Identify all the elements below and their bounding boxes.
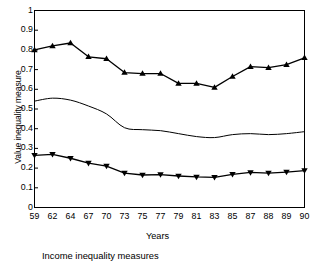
chart-figure: Value inequality measure 10.90.80.70.60.…: [0, 0, 315, 262]
x-tick-label: 90: [293, 211, 316, 221]
x-axis-tick-labels: 59626467707375777981838587888990: [0, 0, 315, 262]
figure-caption: Income inequality measures: [42, 250, 159, 261]
x-axis-label: Years: [0, 231, 315, 241]
